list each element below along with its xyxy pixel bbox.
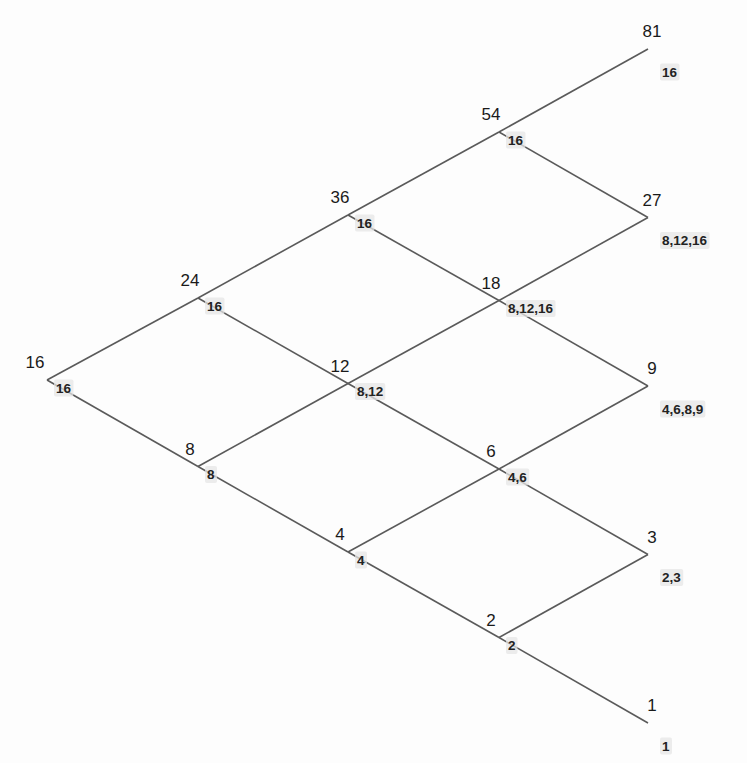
tree-node: 5416	[482, 105, 526, 149]
node-set-label: 16	[357, 216, 373, 231]
node-value-label: 36	[331, 188, 350, 207]
node-value-label: 24	[181, 271, 200, 290]
tree-edge	[499, 638, 648, 724]
binomial-tree-diagram: 16162416883616128,12445416188,12,1664,62…	[0, 0, 747, 763]
tree-node: 188,12,16	[482, 274, 556, 318]
node-value-label: 16	[26, 353, 45, 372]
node-value-label: 18	[482, 274, 501, 293]
node-set-label: 16	[207, 299, 223, 314]
node-set-label: 16	[662, 65, 678, 80]
node-value-label: 81	[643, 22, 662, 41]
node-value-label: 4	[335, 525, 344, 544]
node-set-label: 8,12	[357, 384, 383, 399]
tree-node: 1616	[26, 353, 74, 397]
tree-node: 278,12,16	[643, 191, 710, 250]
tree-node: 3616	[331, 188, 375, 232]
node-set-label: 4,6,8,9	[662, 402, 703, 417]
node-set-label: 8,12,16	[508, 301, 554, 316]
tree-edge	[348, 469, 499, 552]
tree-edge	[198, 384, 348, 467]
tree-edge	[499, 218, 648, 301]
node-value-label: 8	[185, 440, 194, 459]
tree-edge	[47, 298, 198, 380]
node-set-label: 8	[207, 467, 215, 482]
tree-edge	[198, 467, 348, 553]
node-value-label: 6	[486, 442, 495, 461]
tree-node: 32,3	[647, 528, 683, 587]
node-value-label: 27	[643, 191, 662, 210]
node-value-label: 3	[647, 528, 656, 547]
node-set-label: 16	[56, 381, 72, 396]
node-set-label: 2	[508, 638, 516, 653]
tree-edge	[348, 552, 499, 638]
tree-node: 11	[647, 696, 672, 755]
tree-edge	[348, 301, 499, 384]
labels-layer: 16162416883616128,12445416188,12,1664,62…	[26, 22, 710, 755]
tree-edge	[198, 215, 348, 298]
tree-edge	[348, 132, 499, 215]
tree-edge	[499, 386, 648, 469]
node-set-label: 4	[357, 553, 365, 568]
tree-edge	[499, 555, 648, 638]
node-value-label: 54	[482, 105, 501, 124]
node-set-label: 1	[662, 739, 670, 754]
node-value-label: 12	[331, 357, 350, 376]
edges-layer	[47, 49, 648, 723]
tree-edge	[499, 49, 648, 132]
tree-node: 2416	[181, 271, 225, 315]
node-value-label: 2	[486, 611, 495, 630]
node-value-label: 1	[647, 696, 656, 715]
tree-node: 8116	[643, 22, 680, 81]
node-set-label: 2,3	[662, 570, 681, 585]
node-set-label: 4,6	[508, 470, 527, 485]
node-set-label: 8,12,16	[662, 233, 708, 248]
node-set-label: 16	[508, 133, 524, 148]
tree-node: 94,6,8,9	[647, 359, 705, 418]
node-value-label: 9	[647, 359, 656, 378]
